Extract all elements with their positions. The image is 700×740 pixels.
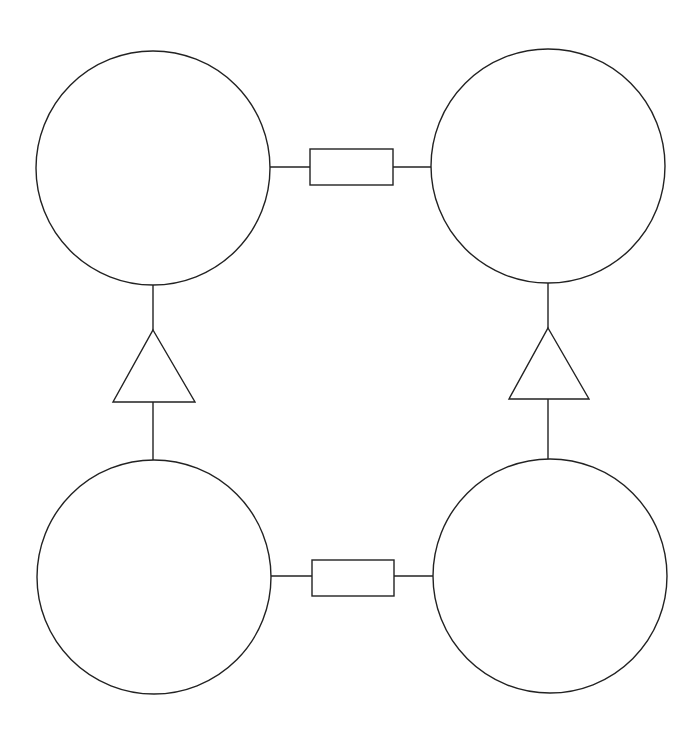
circle-bottom-left (37, 460, 271, 694)
triangle-left (113, 330, 195, 402)
circle-bottom-right (433, 459, 667, 693)
triangle-right (509, 328, 589, 399)
rect-top (310, 149, 393, 185)
circle-top-left (36, 51, 270, 285)
diagram-canvas (0, 0, 700, 740)
circle-top-right (431, 49, 665, 283)
rect-bottom (312, 560, 394, 596)
